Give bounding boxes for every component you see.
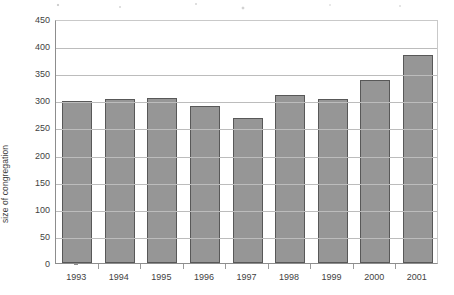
y-tick-label: 450	[22, 16, 50, 25]
x-tick-label: 2001	[407, 272, 427, 282]
gridline	[56, 102, 437, 103]
bar	[403, 55, 433, 263]
gridline	[56, 157, 437, 158]
x-tick-mark	[140, 264, 141, 269]
y-tick-label: 350	[22, 70, 50, 79]
gridline	[56, 238, 437, 239]
gridline	[56, 75, 437, 76]
x-tick-mark	[225, 264, 226, 269]
x-tick-mark	[98, 264, 99, 269]
bars-layer	[56, 21, 437, 263]
x-tick-mark	[353, 264, 354, 269]
gridline	[56, 184, 437, 185]
bar-chart: size of congregation 0501001502002503003…	[0, 0, 454, 295]
y-tick-label: 100	[22, 206, 50, 215]
y-tick-label: 50	[22, 233, 50, 242]
x-tick-label: 1995	[151, 272, 171, 282]
x-tick-mark	[268, 264, 269, 269]
x-axis-tick-labels: 199319941995199619971998199920002001	[55, 272, 438, 286]
y-axis-title: size of congregation	[0, 103, 16, 223]
x-tick-label: 1997	[236, 272, 256, 282]
bar	[233, 118, 263, 263]
x-tick-mark	[183, 264, 184, 269]
x-tick-mark	[395, 264, 396, 269]
y-tick-label: 250	[22, 124, 50, 133]
y-tick-label: 400	[22, 43, 50, 52]
x-tick-label: 1999	[322, 272, 342, 282]
x-tick-label: 1994	[109, 272, 129, 282]
scan-artifact-band	[0, 0, 454, 14]
x-tick-label: 2000	[364, 272, 384, 282]
y-tick-label: 0	[22, 260, 50, 269]
x-tick-label: 1996	[194, 272, 214, 282]
y-axis-tick-labels: 050100150200250300350400450	[22, 20, 50, 264]
x-axis-tick-marks	[55, 264, 438, 270]
gridline	[56, 129, 437, 130]
y-tick-label: 300	[22, 97, 50, 106]
x-tick-label: 1998	[279, 272, 299, 282]
y-tick-label: 150	[22, 179, 50, 188]
gridline	[56, 48, 437, 49]
plot-area	[55, 20, 438, 264]
y-tick-label: 200	[22, 152, 50, 161]
x-tick-mark	[310, 264, 311, 269]
bar	[360, 80, 390, 263]
x-tick-label: 1993	[66, 272, 86, 282]
gridline	[56, 211, 437, 212]
